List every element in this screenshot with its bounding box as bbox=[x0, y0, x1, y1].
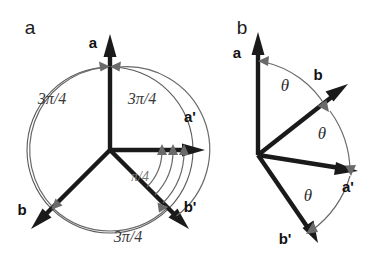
panel-a-vector-b bbox=[31, 150, 110, 229]
panel-b-label-a: a bbox=[233, 44, 242, 61]
panel-a-label-a: a bbox=[89, 34, 98, 51]
panel-b-theta-a-to-b: θ bbox=[281, 76, 289, 95]
panel-a-angle-quarter-pi: π/4 bbox=[131, 169, 149, 184]
panel-a-arc-b-to-b-prime bbox=[54, 203, 169, 231]
panel-b-vector-b bbox=[258, 84, 348, 155]
panel-a-arc-a-to-a-prime bbox=[110, 62, 210, 217]
vector-angle-diagram: a a a' b b' 3π/4 3π/4 3π/4 π/4 bbox=[0, 0, 379, 263]
panel-b-arc-a-to-b bbox=[258, 56, 329, 112]
panel-a-letter: a bbox=[25, 17, 36, 38]
panel-a-label-b-prime: b' bbox=[184, 198, 197, 215]
panel-a-angle-a-to-a-prime: 3π/4 bbox=[127, 90, 156, 107]
panel-a-vector-a bbox=[104, 34, 117, 150]
panel-b-theta-b-to-a-prime: θ bbox=[318, 124, 326, 143]
panel-b-vector-a bbox=[252, 32, 265, 155]
panel-b-letter: b bbox=[237, 17, 248, 38]
panel-a-label-b: b bbox=[17, 201, 26, 218]
panel-b-theta-a-prime-to-b-prime: θ bbox=[304, 186, 312, 205]
panel-b-label-b: b bbox=[313, 66, 322, 83]
panel-a-label-a-prime: a' bbox=[184, 108, 196, 125]
panel-b-label-a-prime: a' bbox=[342, 178, 354, 195]
panel-a-angle-b-to-b-prime: 3π/4 bbox=[113, 228, 142, 245]
panel-b-label-b-prime: b' bbox=[279, 230, 292, 247]
diagram-canvas: a a a' b b' 3π/4 3π/4 3π/4 π/4 bbox=[0, 0, 379, 263]
panel-a-group: a a a' b b' 3π/4 3π/4 3π/4 π/4 bbox=[17, 17, 209, 245]
panel-b-group: b a b a' b' θ θ θ bbox=[233, 17, 358, 247]
panel-a-angle-a-to-b: 3π/4 bbox=[37, 90, 66, 107]
panel-b-vector-a-prime bbox=[258, 155, 358, 175]
panel-a-vector-b-prime bbox=[110, 150, 189, 229]
